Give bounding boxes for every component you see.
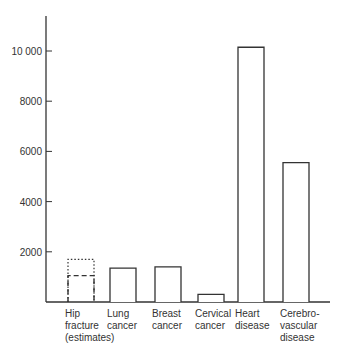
- x-category-label: Cerebro- vascular disease: [280, 308, 319, 344]
- y-tick-label: 10 000: [11, 46, 42, 57]
- x-category-label: Breast cancer: [152, 308, 182, 332]
- bar-hip-fracture-upper-estimate: [68, 259, 94, 302]
- x-category-label: Lung cancer: [107, 308, 137, 332]
- y-tick-label: 2000: [20, 247, 43, 258]
- bar-hip-fracture-lower-estimate: [68, 276, 94, 302]
- bar: [110, 268, 136, 302]
- y-tick-label: 4000: [20, 197, 43, 208]
- y-tick-label: 8000: [20, 96, 43, 107]
- y-tick-label: 6000: [20, 146, 43, 157]
- bar: [198, 294, 224, 302]
- x-category-label: Heart disease: [235, 308, 269, 332]
- bar: [283, 163, 309, 302]
- x-category-label: Cervical cancer: [195, 308, 231, 332]
- bar: [238, 47, 264, 302]
- bar-chart: 200040006000800010 000: [0, 0, 347, 350]
- bar: [155, 267, 181, 302]
